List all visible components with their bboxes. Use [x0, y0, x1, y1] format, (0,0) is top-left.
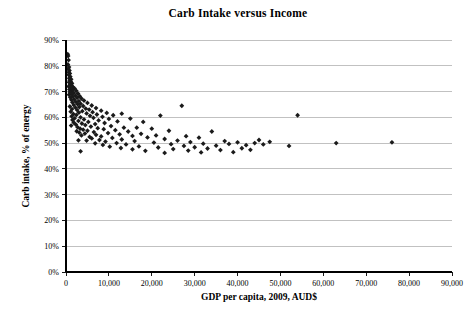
scatter-point: [145, 135, 150, 140]
scatter-point: [141, 120, 146, 125]
scatter-point: [227, 141, 232, 146]
scatter-point: [128, 116, 133, 121]
scatter-point: [209, 129, 214, 134]
scatter-point: [126, 129, 131, 134]
scatter-point: [132, 139, 137, 144]
y-axis-tick-labels: 0%10%20%30%40%50%60%70%80%90%: [44, 36, 59, 277]
x-tick-label: 90,000: [441, 279, 463, 288]
scatter-point: [171, 147, 176, 152]
scatter-point: [197, 135, 202, 140]
x-tick-label: 0: [64, 279, 68, 288]
x-tick-label: 30,000: [184, 279, 206, 288]
scatter-point: [139, 131, 144, 136]
scatter-point: [104, 111, 109, 116]
scatter-point: [130, 147, 135, 152]
x-axis-title: GDP per capita, 2009, AUD$: [201, 292, 317, 302]
scatter-point: [107, 144, 112, 149]
scatter-point: [118, 146, 123, 151]
scatter-point: [113, 128, 118, 133]
scatter-point: [93, 141, 98, 146]
scatter-point: [109, 124, 114, 129]
scatter-point: [143, 148, 148, 153]
scatter-point: [152, 140, 157, 145]
scatter-point: [86, 120, 91, 125]
scatter-point: [188, 140, 193, 145]
scatter-point: [156, 145, 161, 150]
scatter-plot: 010,00020,00030,00040,00050,00060,00070,…: [0, 0, 476, 314]
scatter-point: [94, 106, 99, 111]
scatter-point: [95, 126, 100, 131]
scatter-point: [134, 125, 139, 130]
x-tick-label: 70,000: [355, 279, 377, 288]
scatter-point: [231, 150, 236, 155]
scatter-point: [119, 137, 124, 142]
scatter-point: [137, 144, 142, 149]
y-tick-label: 0%: [48, 268, 59, 277]
scatter-point: [94, 112, 99, 117]
scatter-point: [175, 138, 180, 143]
scatter-point: [295, 113, 300, 118]
x-tick-label: 60,000: [312, 279, 334, 288]
x-tick-label: 50,000: [269, 279, 291, 288]
y-tick-label: 30%: [44, 191, 59, 200]
scatter-point: [162, 151, 167, 156]
scatter-point: [106, 131, 111, 136]
scatter-point: [252, 141, 257, 146]
scatter-point: [167, 128, 172, 133]
scatter-point: [182, 144, 187, 149]
gridlines: [66, 40, 452, 246]
scatter-point: [169, 142, 174, 147]
scatter-point: [186, 148, 191, 153]
scatter-point: [90, 110, 95, 115]
data-points: [65, 52, 394, 156]
scatter-point: [111, 113, 116, 118]
scatter-point: [287, 144, 292, 149]
scatter-point: [248, 147, 253, 152]
x-axis-tick-labels: 010,00020,00030,00040,00050,00060,00070,…: [64, 279, 463, 288]
x-tick-label: 10,000: [98, 279, 120, 288]
scatter-point: [124, 142, 129, 147]
scatter-point: [89, 103, 94, 108]
scatter-point: [184, 134, 189, 139]
x-tick-label: 20,000: [141, 279, 163, 288]
scatter-point: [100, 114, 105, 119]
scatter-point: [93, 122, 98, 127]
y-tick-label: 70%: [44, 88, 59, 97]
scatter-point: [257, 138, 262, 143]
scatter-point: [102, 121, 107, 126]
scatter-point: [192, 145, 197, 150]
y-tick-label: 50%: [44, 139, 59, 148]
scatter-point: [117, 132, 122, 137]
scatter-point: [267, 139, 272, 144]
scatter-point: [235, 140, 240, 145]
y-tick-label: 40%: [44, 165, 59, 174]
scatter-point: [78, 149, 83, 154]
scatter-point: [222, 139, 227, 144]
scatter-point: [162, 137, 167, 142]
scatter-point: [214, 143, 219, 148]
scatter-point: [205, 146, 210, 151]
y-tick-label: 60%: [44, 113, 59, 122]
chart-figure: Carb Intake versus Income 010,00020,0003…: [0, 0, 476, 314]
x-tick-label: 40,000: [227, 279, 249, 288]
scatter-point: [199, 150, 204, 155]
scatter-point: [88, 124, 93, 129]
y-tick-label: 10%: [44, 242, 59, 251]
scatter-point: [201, 141, 206, 146]
scatter-point: [218, 148, 223, 153]
scatter-point: [76, 138, 81, 143]
scatter-point: [99, 108, 104, 113]
scatter-point: [84, 138, 89, 143]
scatter-point: [239, 146, 244, 151]
y-tick-label: 90%: [44, 36, 59, 45]
scatter-point: [149, 126, 154, 131]
scatter-point: [87, 107, 92, 112]
y-axis-title: Carb intake, % of energy: [21, 104, 31, 207]
scatter-point: [114, 141, 119, 146]
scatter-point: [261, 142, 266, 147]
scatter-point: [122, 125, 127, 130]
scatter-point: [179, 103, 184, 108]
scatter-point: [101, 127, 106, 132]
scatter-point: [96, 118, 101, 123]
scatter-point: [119, 111, 124, 116]
